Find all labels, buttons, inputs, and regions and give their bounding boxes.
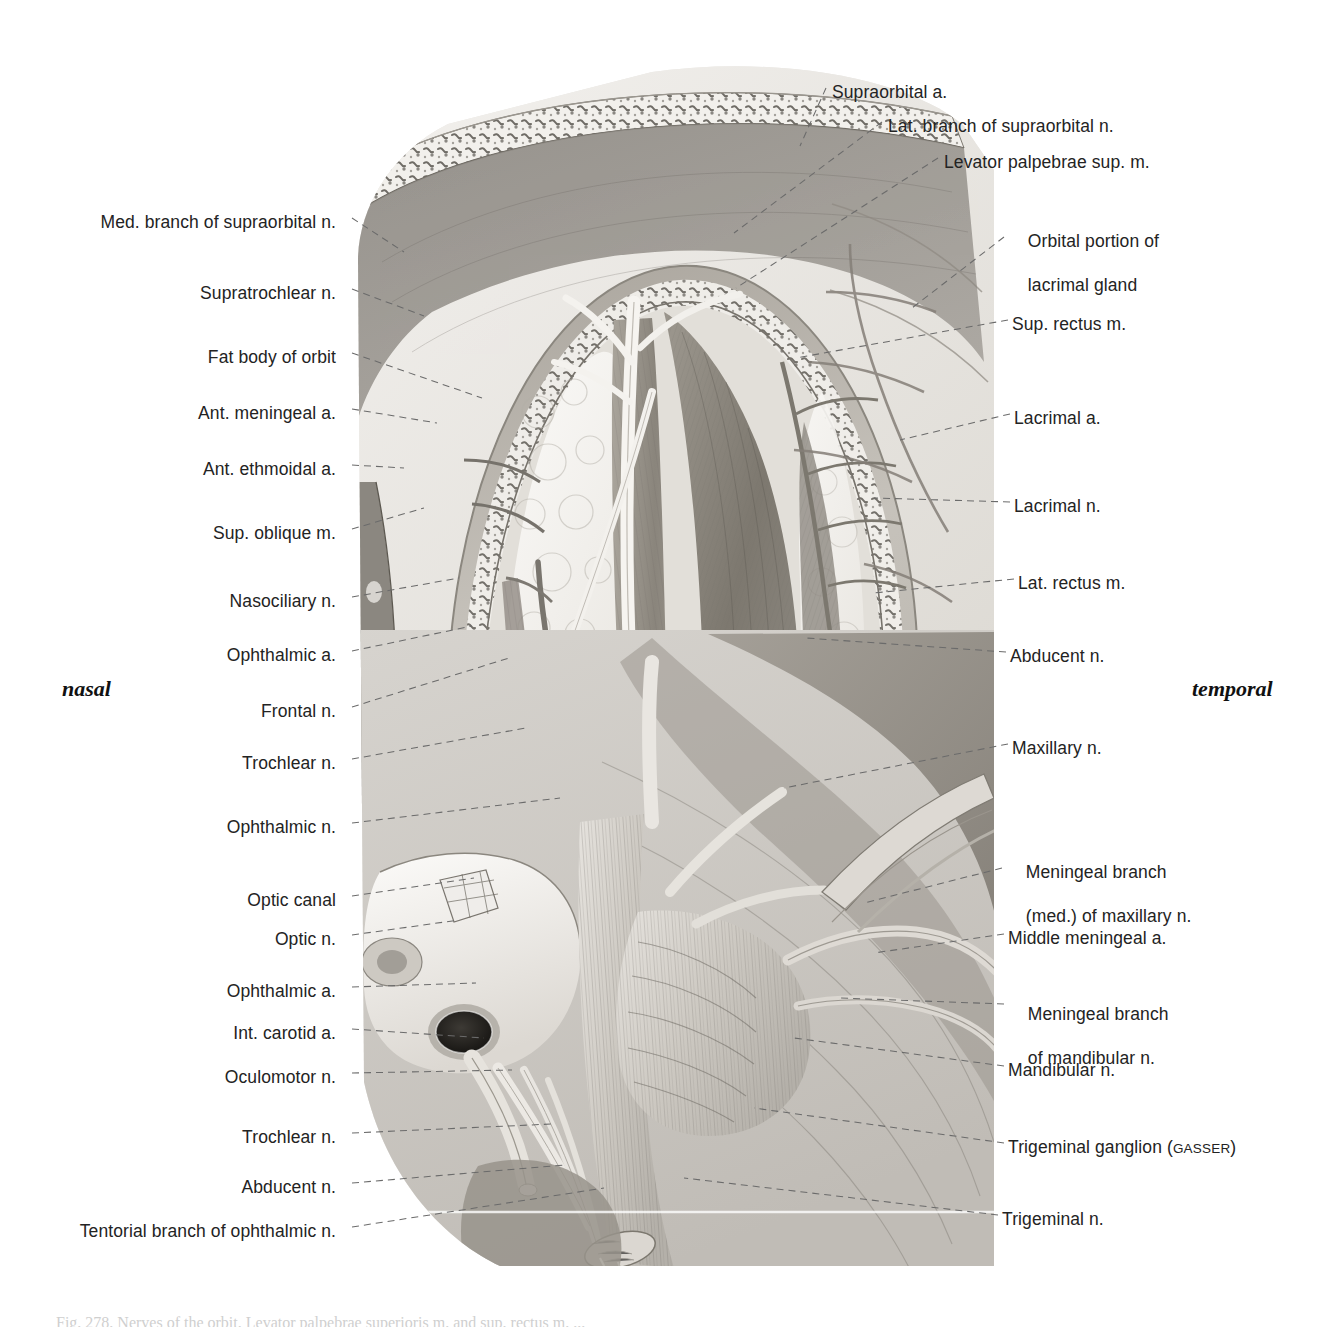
label-tentorial-branch-ophthalmic-n: Tentorial branch of ophthalmic n. (80, 1220, 336, 1242)
label-supraorbital-a: Supraorbital a. (832, 81, 947, 103)
label-frontal-n: Frontal n. (261, 700, 336, 722)
figure-page: Med. branch of supraorbital n. Supratroc… (0, 0, 1343, 1328)
label-trigeminal-ganglion-gasser: Trigeminal ganglion (GASSER) (1008, 1136, 1236, 1160)
label-suffix: ) (1230, 1137, 1236, 1157)
figure-caption: Fig. 278. Nerves of the orbit. Levator p… (56, 1314, 1156, 1327)
label-sup-oblique-m: Sup. oblique m. (213, 522, 336, 544)
orientation-label-nasal: nasal (62, 676, 111, 702)
label-nasociliary-n: Nasociliary n. (230, 590, 336, 612)
label-ant-ethmoidal-a: Ant. ethmoidal a. (203, 458, 336, 480)
label-oculomotor-n: Oculomotor n. (225, 1066, 336, 1088)
label-text: Trigeminal ganglion ( (1008, 1137, 1173, 1157)
label-fat-body-of-orbit: Fat body of orbit (208, 346, 336, 368)
label-lacrimal-n: Lacrimal n. (1014, 495, 1101, 517)
label-ophthalmic-n: Ophthalmic n. (227, 816, 336, 838)
eponym-gasser: GASSER (1173, 1141, 1230, 1156)
label-med-branch-supraorbital-n: Med. branch of supraorbital n. (101, 211, 337, 233)
label-abducent-n-upper: Abducent n. (1010, 645, 1105, 667)
label-line-1: Meningeal branch (1026, 862, 1167, 882)
label-maxillary-n: Maxillary n. (1012, 737, 1102, 759)
label-line-2: lacrimal gland (1028, 275, 1137, 295)
label-lat-branch-supraorbital-n: Lat. branch of supraorbital n. (888, 115, 1114, 137)
label-optic-n: Optic n. (275, 928, 336, 950)
label-optic-canal: Optic canal (247, 889, 336, 911)
label-line-1: Orbital portion of (1028, 231, 1159, 251)
label-abducent-n-lower: Abducent n. (241, 1176, 336, 1198)
label-line-1: Meningeal branch (1028, 1004, 1169, 1024)
anatomical-illustration (352, 62, 1000, 1290)
label-trochlear-n-upper: Trochlear n. (242, 752, 336, 774)
label-lat-rectus-m: Lat. rectus m. (1018, 572, 1125, 594)
label-ant-meningeal-a: Ant. meningeal a. (198, 402, 336, 424)
label-orbital-portion-lacrimal-gland: Orbital portion of lacrimal gland (1008, 208, 1159, 318)
label-trigeminal-n: Trigeminal n. (1002, 1208, 1104, 1230)
label-ophthalmic-a-lower: Ophthalmic a. (227, 980, 336, 1002)
label-line-2: (med.) of maxillary n. (1026, 906, 1192, 926)
label-ophthalmic-a-upper: Ophthalmic a. (227, 644, 336, 666)
label-levator-palpebrae-sup-m: Levator palpebrae sup. m. (944, 151, 1150, 173)
label-middle-meningeal-a: Middle meningeal a. (1008, 927, 1167, 949)
label-trochlear-n-lower: Trochlear n. (242, 1126, 336, 1148)
label-lacrimal-a: Lacrimal a. (1014, 407, 1101, 429)
label-int-carotid-a: Int. carotid a. (233, 1022, 336, 1044)
label-sup-rectus-m: Sup. rectus m. (1012, 313, 1126, 335)
label-mandibular-n: Mandibular n. (1008, 1059, 1115, 1081)
orientation-label-temporal: temporal (1192, 676, 1273, 702)
label-supratrochlear-n: Supratrochlear n. (200, 282, 336, 304)
